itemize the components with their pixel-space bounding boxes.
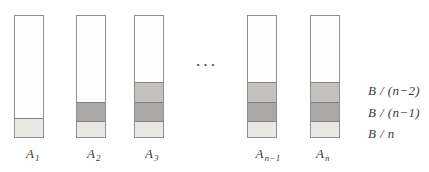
segment-b-over-n-minus-2: [311, 82, 339, 102]
bar-label-an-minus-1: An−1: [256, 146, 281, 162]
ellipsis-dots: ···: [190, 57, 224, 73]
harmonic-bars-figure: ··· A1 A2 A3 An−1 An B / (n−2) B / (n−1)…: [0, 0, 429, 172]
row-label-b-over-n: B / n: [368, 126, 395, 142]
bar-label-subscript: n: [325, 153, 330, 163]
bar-label-subscript: 2: [96, 153, 101, 163]
bar-label-subscript: n−1: [264, 153, 280, 163]
segment-b-over-n-minus-1: [311, 102, 339, 121]
bar-label-base: A: [145, 146, 153, 161]
bar-label-base: A: [316, 146, 324, 161]
bar-a2: [76, 15, 106, 138]
segment-b-over-n: [135, 121, 163, 137]
segment-b-over-n-minus-2: [248, 82, 276, 102]
bar-an-minus-1: [247, 15, 277, 138]
bar-label-a3: A3: [145, 146, 159, 162]
segment-b-over-n: [248, 121, 276, 137]
bar-label-base: A: [87, 146, 95, 161]
bar-label-a2: A2: [87, 146, 101, 162]
segment-b-over-n-minus-2: [135, 82, 163, 102]
bar-label-a1: A1: [26, 146, 40, 162]
bar-a1: [14, 15, 44, 138]
bar-label-subscript: 3: [154, 153, 159, 163]
segment-b-over-n: [77, 121, 105, 137]
bar-label-subscript: 1: [35, 153, 40, 163]
bar-label-base: A: [256, 146, 264, 161]
segment-b-over-n-minus-1: [77, 102, 105, 121]
row-label-b-over-n-minus-1: B / (n−1): [368, 105, 420, 121]
row-label-b-over-n-minus-2: B / (n−2): [368, 83, 420, 99]
segment-b-over-n-minus-1: [135, 102, 163, 121]
bar-a3: [134, 15, 164, 138]
bar-an: [310, 15, 340, 138]
segment-b-over-n: [15, 118, 43, 137]
bar-label-an: An: [316, 146, 330, 162]
segment-b-over-n: [311, 121, 339, 137]
segment-b-over-n-minus-1: [248, 102, 276, 121]
bar-label-base: A: [26, 146, 34, 161]
